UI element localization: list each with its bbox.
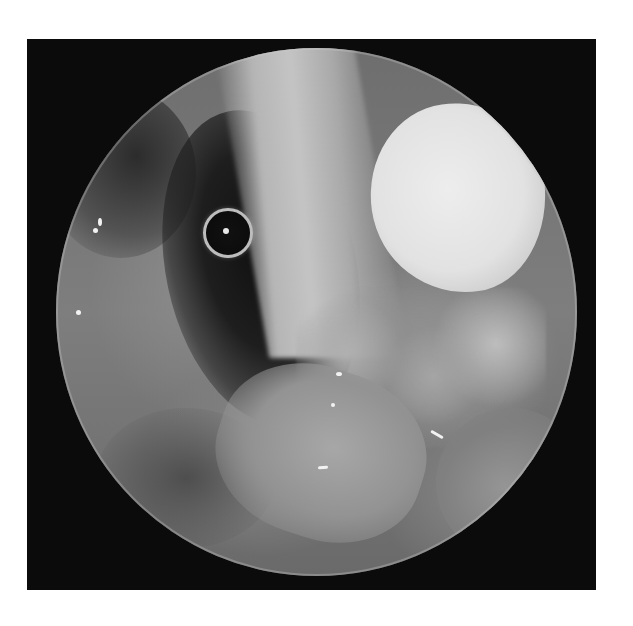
scope-rim bbox=[56, 48, 577, 576]
specular-highlight bbox=[108, 479, 112, 483]
endoscope-view bbox=[56, 48, 577, 576]
image-frame bbox=[27, 39, 596, 590]
specular-highlight bbox=[570, 380, 573, 390]
